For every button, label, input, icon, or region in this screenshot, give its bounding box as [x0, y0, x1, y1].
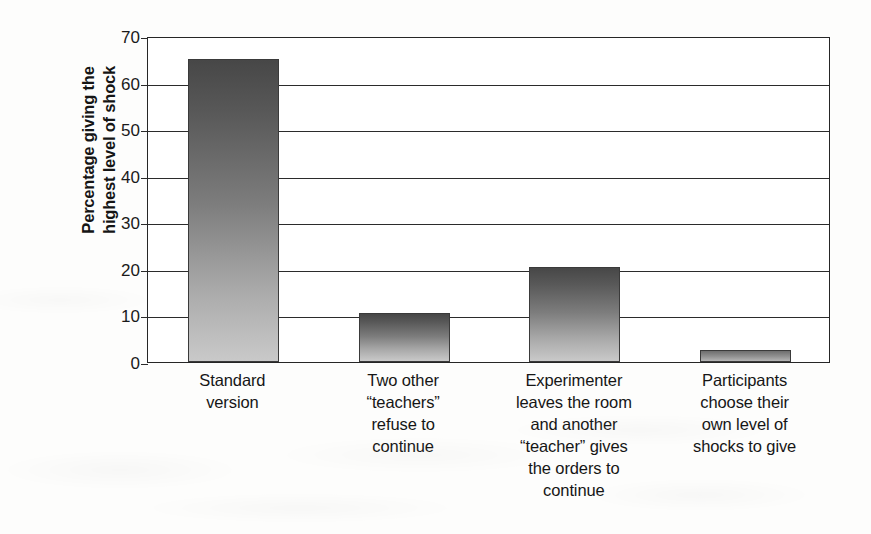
x-category-label-line: own level of — [660, 414, 830, 436]
x-category-label-line: “teachers” — [318, 392, 488, 414]
x-category-label-line: continue — [318, 436, 488, 458]
x-category-label-3: Experimenterleaves the roomand another“t… — [489, 370, 659, 502]
y-tick-label-20: 20 — [100, 261, 140, 278]
x-category-label-line: Standard — [147, 370, 317, 392]
x-category-label-1: Standardversion — [147, 370, 317, 414]
y-tick-label-60: 60 — [100, 75, 140, 92]
y-tick-label-10: 10 — [100, 308, 140, 325]
y-tick-mark-10 — [141, 317, 148, 318]
bars-group — [148, 38, 829, 362]
y-axis-tick-labels: 706050403020100 — [96, 0, 140, 534]
y-tick-label-30: 30 — [100, 215, 140, 232]
y-tick-mark-20 — [141, 271, 148, 272]
bar-4 — [700, 350, 791, 362]
x-category-label-line: leaves the room — [489, 392, 659, 414]
x-category-label-line: “teacher” gives — [489, 436, 659, 458]
y-tick-mark-70 — [141, 38, 148, 39]
x-category-label-line: Experimenter — [489, 370, 659, 392]
x-category-label-line: shocks to give — [660, 436, 830, 458]
y-tick-label-40: 40 — [100, 168, 140, 185]
x-axis-category-labels: StandardversionTwo other“teachers”refuse… — [147, 370, 830, 520]
x-category-label-line: version — [147, 392, 317, 414]
y-tick-mark-50 — [141, 131, 148, 132]
y-tick-mark-60 — [141, 85, 148, 86]
x-category-label-line: refuse to — [318, 414, 488, 436]
bar-2 — [359, 313, 450, 362]
bar-3 — [529, 267, 620, 362]
bar-chart-figure: Percentage giving the highest level of s… — [0, 0, 871, 534]
y-tick-mark-30 — [141, 224, 148, 225]
x-category-label-line: continue — [489, 480, 659, 502]
x-category-label-4: Participantschoose theirown level ofshoc… — [660, 370, 830, 458]
y-tick-mark-0 — [141, 364, 148, 365]
x-category-label-line: choose their — [660, 392, 830, 414]
bar-1 — [188, 59, 279, 362]
plot-area — [147, 37, 830, 363]
x-category-label-line: the orders to — [489, 458, 659, 480]
y-tick-label-70: 70 — [100, 29, 140, 46]
x-category-label-2: Two other“teachers”refuse tocontinue — [318, 370, 488, 458]
y-tick-mark-40 — [141, 178, 148, 179]
x-category-label-line: Two other — [318, 370, 488, 392]
y-tick-label-0: 0 — [100, 355, 140, 372]
x-category-label-line: and another — [489, 414, 659, 436]
y-tick-label-50: 50 — [100, 122, 140, 139]
x-category-label-line: Participants — [660, 370, 830, 392]
